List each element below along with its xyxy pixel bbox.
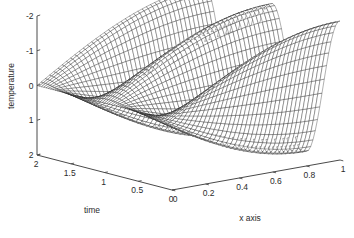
time-tick-label: 1.5 <box>64 168 76 178</box>
x-tick-label: 1 <box>341 164 346 174</box>
temperature-axis-title: temperature <box>6 63 16 109</box>
time-tick <box>138 181 141 182</box>
surface-plot-svg: 210-1-221.510.5000.20.40.60.81timex axis… <box>0 0 354 238</box>
x-axis-title: x axis <box>239 213 261 223</box>
temperature-tick-label: -2 <box>26 11 34 21</box>
x-tick-label: 0.2 <box>203 188 215 198</box>
x-tick-label: 0 <box>173 194 178 204</box>
x-tick-label: 0.6 <box>270 176 282 186</box>
temperature-tick-label: 0 <box>29 81 34 91</box>
temperature-tick-label: -1 <box>26 46 34 56</box>
temperature-tick-label: 1 <box>29 115 34 125</box>
x-tick-label: 0.4 <box>236 182 248 192</box>
time-tick-label: 2 <box>34 159 39 169</box>
time-tick <box>105 172 108 173</box>
figure-canvas: 210-1-221.510.5000.20.40.60.81timex axis… <box>0 0 354 238</box>
time-tick-label: 0.5 <box>131 185 143 195</box>
x-tick-label: 0.8 <box>303 170 315 180</box>
time-axis-title: time <box>84 205 100 215</box>
time-tick <box>37 154 40 155</box>
time-tick <box>71 163 74 164</box>
time-tick-label: 1 <box>101 177 106 187</box>
